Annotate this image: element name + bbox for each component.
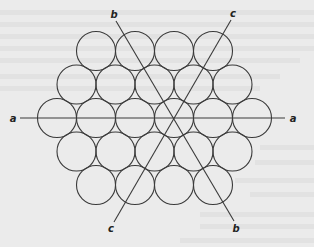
axis-c-line	[114, 20, 231, 222]
axis-a-end-label: a	[290, 113, 297, 124]
packed-circle	[213, 65, 252, 104]
packed-circle	[155, 166, 194, 205]
axis-c-end-label: c	[108, 223, 114, 234]
axis-b-line	[116, 21, 234, 221]
axis-b-start-label: b	[110, 9, 117, 20]
packed-circle	[96, 132, 135, 171]
packed-circle	[116, 32, 155, 71]
axis-c-start-label: c	[230, 8, 236, 19]
packed-circle	[135, 65, 174, 104]
axis-a-start-label: a	[10, 113, 17, 124]
close-packed-diagram: a a b b c c	[0, 0, 314, 247]
packed-circle	[77, 32, 116, 71]
axis-b-end-label: b	[232, 223, 239, 234]
packed-circle	[57, 65, 96, 104]
page-background: a a b b c c	[0, 0, 314, 247]
axes-layer: a a b b c c	[10, 8, 297, 234]
packed-circle	[77, 166, 116, 205]
packed-circle	[96, 65, 135, 104]
packed-circle	[213, 132, 252, 171]
packed-circle	[57, 132, 96, 171]
packed-circle	[155, 32, 194, 71]
